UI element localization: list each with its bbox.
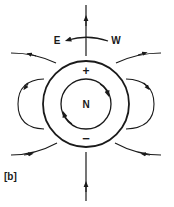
left-field-lines [11, 53, 57, 155]
negative-charge-label: − [82, 131, 90, 146]
magnetic-field-diagram: E W + N − [0, 0, 174, 207]
north-label: N [82, 99, 89, 110]
rotation-arrow-icon [68, 37, 108, 41]
direction-west-label: W [111, 35, 121, 46]
positive-charge-label: + [82, 64, 89, 78]
direction-east-label: E [54, 35, 61, 46]
figure-label: [b] [4, 171, 17, 182]
right-field-lines [115, 53, 161, 155]
